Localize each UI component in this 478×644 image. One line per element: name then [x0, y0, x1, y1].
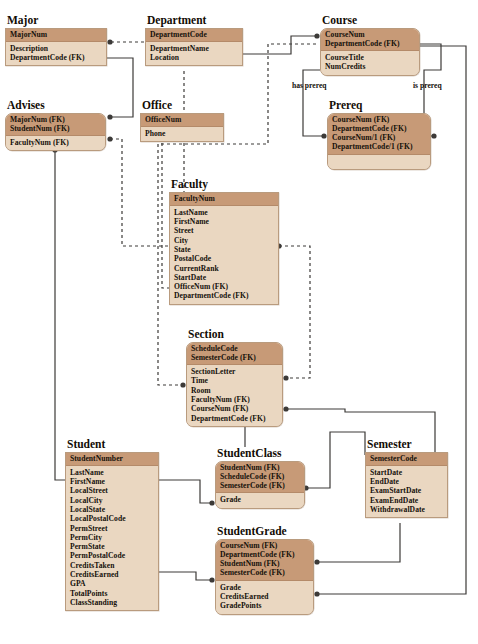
key-field: FacultyNum	[174, 194, 274, 203]
entity-box: StudentNum (FK)ScheduleCode (FK)Semester…	[215, 461, 305, 509]
entity-box: StudentNumber LastNameFirstNameLocalStre…	[65, 452, 159, 612]
entity-title: Major	[7, 14, 107, 26]
attribute-field: LastName	[70, 468, 154, 477]
attribute-field: GradePoints	[220, 601, 309, 610]
key-section: StudentNumber	[66, 453, 158, 466]
attribute-field: LocalPostalCode	[70, 514, 154, 523]
key-section: DepartmentCode	[146, 29, 242, 42]
attribute-field: CourseTitle	[325, 53, 415, 62]
wire-department-course	[243, 36, 316, 54]
wire-student-studentclass	[159, 480, 211, 503]
attribute-field: Time	[191, 376, 278, 385]
attribute-section: LastNameFirstNameStreetCityStatePostalCo…	[170, 206, 278, 304]
dot-studentgrade-key-right	[314, 559, 319, 564]
key-section: CourseNum (FK)DepartmentCode (FK)CourseN…	[328, 114, 430, 155]
attribute-section: Phone	[141, 127, 223, 141]
attribute-field: LastName	[174, 208, 274, 217]
attribute-field: Phone	[145, 129, 219, 138]
key-section: CourseNumDepartmentCode (FK)	[321, 29, 419, 52]
attribute-field: LocalState	[70, 505, 154, 514]
attribute-field: FacultyNum (FK)	[191, 395, 278, 404]
attribute-field: PermCity	[70, 533, 154, 542]
attribute-field: DepartmentCode (FK)	[10, 53, 102, 62]
attribute-field: CreditsEarned	[70, 570, 154, 579]
entity-box: MajorNum (FK)StudentNum (FK) FacultyNum …	[5, 113, 106, 152]
key-field: MajorNum (FK)	[10, 115, 101, 124]
dot-advises-attr	[107, 136, 112, 141]
key-field: DepartmentCode (FK)	[332, 124, 426, 133]
attribute-field: Grade	[220, 583, 309, 592]
key-field: SemesterCode	[370, 454, 443, 463]
entity-faculty[interactable]: Faculty FacultyNum LastNameFirstNameStre…	[169, 178, 279, 305]
entity-title: Prereq	[329, 99, 431, 111]
entity-student[interactable]: Student StudentNumber LastNameFirstNameL…	[65, 438, 159, 611]
attribute-field: LocalStreet	[70, 486, 154, 495]
attribute-section: CourseTitleNumCredits	[321, 51, 419, 75]
entity-department[interactable]: Department DepartmentCode DepartmentName…	[145, 14, 243, 66]
entity-studentclass[interactable]: StudentClass StudentNum (FK)ScheduleCode…	[215, 447, 305, 509]
attribute-field: PostalCode	[174, 254, 274, 263]
entity-studentgrade[interactable]: StudentGrade CourseNum (FK)DepartmentCod…	[215, 525, 314, 615]
attribute-field: DepartmentName	[150, 44, 238, 53]
entity-course[interactable]: Course CourseNumDepartmentCode (FK) Cour…	[320, 14, 420, 76]
key-field: OfficeNum	[145, 115, 219, 124]
dot-major-key	[107, 39, 112, 44]
entity-advises[interactable]: Advises MajorNum (FK)StudentNum (FK) Fac…	[5, 99, 106, 151]
entity-section[interactable]: Section ScheduleCodeSemesterCode (FK) Se…	[186, 328, 283, 427]
attribute-field: WithdrawalDate	[370, 505, 443, 514]
attribute-field: CreditsEarned	[220, 592, 309, 601]
dot-section-right-lower	[283, 406, 288, 411]
key-field: MajorNum	[10, 30, 102, 39]
entity-semester[interactable]: Semester SemesterCode StartDateEndDateEx…	[365, 438, 448, 518]
entity-prereq[interactable]: Prereq CourseNum (FK)DepartmentCode (FK)…	[327, 99, 431, 170]
entity-title: Section	[188, 328, 283, 340]
attribute-field: FirstName	[70, 477, 154, 486]
dot-prereq-right	[431, 133, 436, 138]
attribute-field: StartDate	[174, 273, 274, 282]
entity-title: Office	[142, 99, 224, 111]
attribute-field: Room	[191, 386, 278, 395]
entity-box: MajorNum DescriptionDepartmentCode (FK)	[5, 28, 107, 67]
attribute-section: SectionLetterTimeRoomFacultyNum (FK)Cour…	[187, 365, 282, 426]
attribute-field: ClassStanding	[70, 598, 154, 607]
entity-office[interactable]: Office OfficeNum Phone	[140, 99, 224, 142]
attribute-field: DepartmentCode (FK)	[191, 414, 278, 423]
wire-studentclass-semester	[307, 432, 365, 488]
attribute-field: CreditsTaken	[70, 561, 154, 570]
attribute-field: LocalCity	[70, 496, 154, 505]
attribute-field: StartDate	[370, 468, 443, 477]
wire-major-advises	[107, 58, 133, 117]
attribute-field: City	[174, 236, 274, 245]
attribute-field: Street	[174, 226, 274, 235]
attribute-section: StartDateEndDateExamStartDateExamEndDate…	[366, 466, 447, 517]
attribute-field: Location	[150, 53, 238, 62]
entity-major[interactable]: Major MajorNum DescriptionDepartmentCode…	[5, 14, 107, 66]
dot-studentgrade-grade	[209, 577, 214, 582]
key-field: DepartmentCode	[150, 30, 238, 39]
key-field: StudentNumber	[70, 454, 154, 463]
dot-section-left	[180, 382, 185, 387]
key-field: DepartmentCode (FK)	[220, 550, 309, 559]
relationship-label-has-prereq: has prereq	[292, 81, 327, 90]
attribute-field: PermPostalCode	[70, 551, 154, 560]
attribute-field: DepartmentCode (FK)	[174, 291, 274, 300]
entity-box: CourseNum (FK)DepartmentCode (FK)CourseN…	[327, 113, 431, 170]
er-diagram-canvas: has prereq is prereq Major MajorNum Desc…	[0, 0, 478, 644]
entity-title: StudentGrade	[217, 525, 314, 537]
attribute-field: PermStreet	[70, 524, 154, 533]
dot-course-key	[314, 33, 319, 38]
key-section: ScheduleCodeSemesterCode (FK)	[187, 343, 282, 366]
entity-box: CourseNumDepartmentCode (FK) CourseTitle…	[320, 28, 420, 76]
attribute-section: Grade	[216, 493, 304, 507]
entity-title: Department	[147, 14, 243, 26]
attribute-field	[332, 157, 426, 166]
attribute-field: NumCredits	[325, 62, 415, 71]
dot-studentgrade-attr-right	[314, 591, 319, 596]
attribute-field: OfficeNum (FK)	[174, 282, 274, 291]
key-field: StudentNum (FK)	[220, 463, 300, 472]
wire-student-studentgrade	[159, 572, 211, 580]
attribute-field: PermState	[70, 542, 154, 551]
attribute-section: LastNameFirstNameLocalStreetLocalCityLoc…	[66, 466, 158, 610]
attribute-section: DescriptionDepartmentCode (FK)	[6, 42, 106, 66]
entity-title: Course	[322, 14, 420, 26]
